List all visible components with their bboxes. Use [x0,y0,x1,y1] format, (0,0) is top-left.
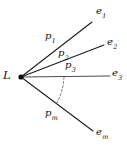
vertex-dot-L [18,74,23,79]
endpoint-label-e2: e2 [107,37,117,49]
path-label-p3: p3 [65,60,75,72]
fan-paths-diagram: L e1 e2 e3 em p1 p2 p3 pm [0,0,127,145]
endpoint-label-e1: e1 [96,6,106,18]
vertex-label-L: L [3,70,11,82]
diagram-canvas [0,0,127,145]
path-label-pm: pm [45,108,57,120]
ray-line-3 [21,76,110,77]
endpoint-label-e3: e3 [112,68,122,80]
ray-line-1 [21,22,92,77]
path-label-p1: p1 [45,31,55,43]
endpoint-label-em: em [96,127,108,139]
omitted-rays-dashed-arc [56,77,64,104]
ray-line-m [21,77,93,131]
